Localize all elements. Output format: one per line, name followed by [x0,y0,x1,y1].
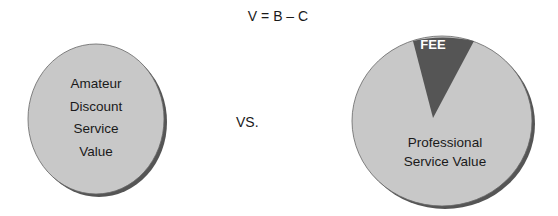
amateur-line-2: Discount [56,96,136,119]
amateur-line-4: Value [56,141,136,164]
amateur-label: Amateur Discount Service Value [56,73,136,163]
versus-label: VS. [236,114,259,130]
amateur-line-1: Amateur [56,73,136,96]
fee-label: FEE [413,37,453,53]
amateur-line-3: Service [56,118,136,141]
professional-line-2: Service Value [370,152,520,171]
professional-label: Professional Service Value [370,133,520,171]
professional-line-1: Professional [370,133,520,152]
